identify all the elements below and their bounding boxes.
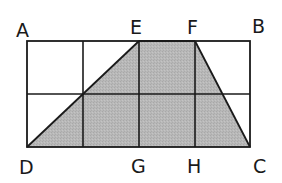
label-E: E xyxy=(130,16,142,38)
geometry-diagram: A E F B D G H C xyxy=(0,0,282,183)
label-C: C xyxy=(253,155,266,177)
label-F: F xyxy=(187,16,198,38)
label-H: H xyxy=(187,155,201,177)
label-D: D xyxy=(19,156,34,178)
label-A: A xyxy=(16,19,29,41)
label-B: B xyxy=(252,15,265,37)
label-G: G xyxy=(131,155,146,177)
